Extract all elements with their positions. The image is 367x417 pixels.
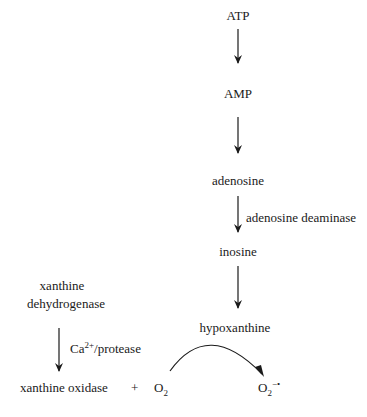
calcium-charge: 2+ [84, 340, 94, 350]
curved-arrow-o2-to-superoxide [170, 345, 262, 374]
node-oxygen: O2 [154, 380, 168, 395]
node-adenosine: adenosine [212, 173, 264, 188]
superoxide-symbol: O [258, 380, 267, 395]
oxygen-subscript: 2 [163, 388, 168, 398]
enzyme-adenosine-deaminase: adenosine deaminase [246, 210, 356, 225]
pathway-arrows [0, 0, 367, 417]
node-xanthine-oxidase: xanthine oxidase [20, 380, 108, 395]
node-amp: AMP [224, 86, 252, 101]
protease-text: /protease [94, 341, 141, 356]
node-xanthine-dehydrogenase-line1: xanthine [40, 278, 85, 293]
node-atp: ATP [226, 8, 249, 23]
plus-sign: + [131, 380, 138, 395]
node-inosine: inosine [219, 244, 257, 259]
node-hypoxanthine: hypoxanthine [200, 320, 271, 335]
node-superoxide: O2−• [258, 380, 280, 395]
superoxide-subscript: 2 [267, 388, 272, 398]
label-calcium-protease: Ca2+/protease [70, 341, 141, 356]
oxygen-symbol: O [154, 380, 163, 395]
calcium-text: Ca [70, 341, 84, 356]
superoxide-radical-charge: −• [272, 379, 280, 389]
node-xanthine-dehydrogenase-line2: dehydrogenase [27, 296, 105, 311]
